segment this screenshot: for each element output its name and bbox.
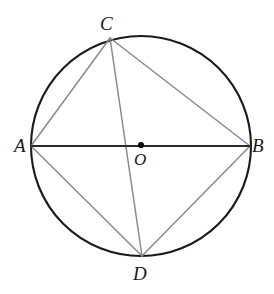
geometry-figure: A B C D O	[0, 0, 274, 294]
point-label-c: C	[100, 14, 113, 33]
segment-DB	[142, 146, 250, 256]
segment-AC	[31, 38, 110, 146]
segment-CD	[110, 38, 142, 256]
point-label-d: D	[133, 264, 147, 283]
point-label-b: B	[252, 136, 264, 155]
point-label-a: A	[14, 136, 26, 155]
center-point-dot	[138, 142, 144, 148]
segment-CB	[110, 38, 250, 146]
center-label-o: O	[134, 151, 146, 168]
circle-diagram-canvas	[0, 0, 274, 294]
segment-AD	[31, 146, 142, 256]
